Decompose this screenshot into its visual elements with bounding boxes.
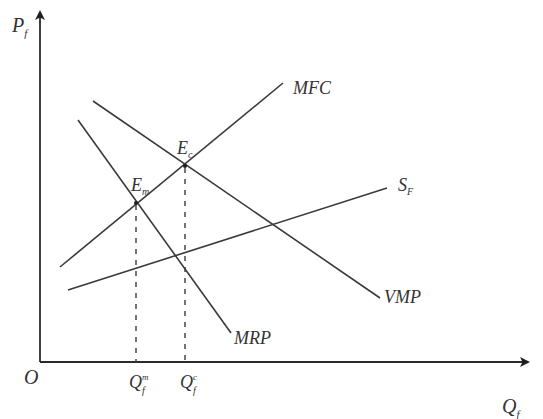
mfc-curve (60, 83, 283, 267)
ec-point (183, 164, 187, 168)
mrp-label: MRP (233, 328, 271, 348)
ec-label: Ec (176, 138, 193, 160)
vmp-label: VMP (384, 287, 421, 307)
mrp-curve (78, 120, 231, 333)
y-axis-label: Pf (11, 14, 29, 39)
qc-tick-sub: f (193, 385, 197, 396)
em-label: Em (130, 175, 149, 197)
em-point (134, 201, 138, 205)
qm-tick-label: Qm (129, 372, 149, 392)
factor-market-diagram: Pf O Qf MFC VMP MRP SF Em Ec Qm f Qc f (0, 0, 543, 419)
sf-label: SF (398, 175, 414, 197)
qm-tick-sub: f (142, 385, 146, 396)
origin-label: O (24, 366, 38, 388)
x-axis-label: Qf (502, 395, 521, 419)
mfc-label: MFC (292, 78, 332, 98)
sf-curve (68, 188, 387, 290)
